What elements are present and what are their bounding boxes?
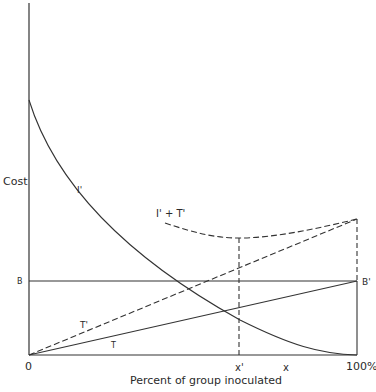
i-plus-t-curve <box>165 219 357 238</box>
b-prime-label: B' <box>362 277 371 287</box>
x-tick-zero: 0 <box>25 360 32 373</box>
t-prime-label: T' <box>79 320 88 330</box>
b-label: B <box>17 277 23 286</box>
x-tick-x: x <box>283 362 289 373</box>
i-plus-t-label: I' + T' <box>156 208 185 219</box>
diagram: Cost B B' I' I' + T' T' T 0 x' x 100% Pe… <box>0 0 376 392</box>
y-axis-label: Cost <box>3 175 28 188</box>
x-tick-x-prime: x' <box>235 362 244 373</box>
i-prime-label: I' <box>77 185 82 195</box>
x-axis-label: Percent of group inoculated <box>130 374 282 387</box>
x-tick-hundred: 100% <box>346 360 376 373</box>
t-label: T <box>110 341 116 350</box>
t-prime-line <box>29 219 357 355</box>
i-prime-curve <box>29 100 357 355</box>
